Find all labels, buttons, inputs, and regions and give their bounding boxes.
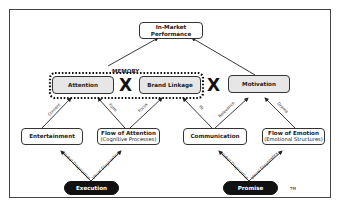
communication-node: Communication [183, 128, 247, 145]
flow-of-attention-node: Flow of Attention (Cognitive Processes) [97, 128, 160, 145]
multiply-icon: X [207, 77, 220, 94]
attention-node: Attention [52, 76, 114, 94]
promise-node: Promise [223, 181, 278, 195]
in-market-performance-node: In-Market Performance [139, 22, 203, 39]
motivation-node: Motivation [228, 75, 290, 93]
trademark-mark: TM [290, 186, 296, 191]
multiply-icon: X [119, 77, 132, 94]
memory-label: MEMORY [112, 68, 139, 74]
entertainment-node: Entertainment [21, 128, 83, 145]
brand-linkage-node: Brand Linkage [139, 76, 201, 94]
flow-of-emotion-node: Flow of Emotion (Emotional Structures) [262, 128, 325, 145]
execution-node: Execution [64, 181, 119, 195]
